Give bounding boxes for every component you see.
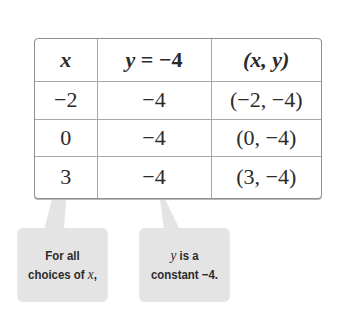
cell-x: −2 <box>35 81 97 119</box>
cell-y: −4 <box>97 156 211 198</box>
header-y-rest: = −4 <box>135 47 182 72</box>
callout-2-rest: is a <box>176 248 198 263</box>
callout-2-pointer <box>160 199 180 230</box>
cell-y: −4 <box>97 119 211 156</box>
callout-x-choices: For all choices of x, <box>17 228 108 302</box>
cell-pair: (0, −4) <box>211 119 321 156</box>
callout-1-pointer <box>44 199 66 230</box>
header-pair-label: (x, y) <box>243 47 289 72</box>
table-row: 3 −4 (3, −4) <box>35 156 321 198</box>
callout-1-line1: For all <box>17 246 108 265</box>
header-y-var: y <box>126 47 136 72</box>
cell-pair: (3, −4) <box>211 156 321 198</box>
header-y: y = −4 <box>97 39 211 81</box>
cell-y: −4 <box>97 81 211 119</box>
cell-pair: (−2, −4) <box>211 81 321 119</box>
header-x: x <box>35 39 97 81</box>
cell-x: 0 <box>35 119 97 156</box>
callout-2-line2: constant −4. <box>139 265 230 284</box>
callout-1-prefix: choices of <box>28 267 88 282</box>
header-x-label: x <box>60 47 71 72</box>
table-header-row: x y = −4 (x, y) <box>35 39 321 81</box>
callout-1-suffix: , <box>94 267 97 282</box>
table-row: −2 −4 (−2, −4) <box>35 81 321 119</box>
header-pair: (x, y) <box>211 39 321 81</box>
cell-x: 3 <box>35 156 97 198</box>
callout-y-constant: y is a constant −4. <box>139 228 230 302</box>
table-row: 0 −4 (0, −4) <box>35 119 321 156</box>
values-table: x y = −4 (x, y) −2 −4 (−2, −4) 0 −4 (0, … <box>34 38 322 199</box>
callout-1-line2: choices of x, <box>17 265 108 284</box>
callout-2-line1: y is a <box>139 246 230 265</box>
